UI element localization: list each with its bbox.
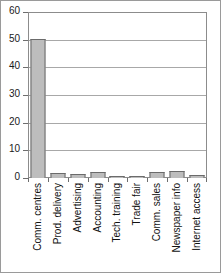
y-tick-label-60: 60 <box>9 6 20 16</box>
x-axis-category-label: Comm. centres <box>33 183 43 251</box>
x-tick-mark <box>187 178 188 182</box>
y-tick-label-50: 50 <box>9 34 20 44</box>
x-tick-mark <box>28 178 29 182</box>
bar-chart-figure: 0102030405060 Comm. centresProd. deliver… <box>0 0 221 273</box>
bar-slot <box>108 12 128 178</box>
x-label-slot: Advertising <box>68 183 88 272</box>
x-label-slot: Trade fair <box>127 183 147 272</box>
x-label-slot: Newspaper info <box>167 183 187 272</box>
x-label-slot: Tech. training <box>108 183 128 272</box>
x-axis-category-label: Internet access <box>192 183 202 251</box>
x-label-slot: Accounting <box>88 183 108 272</box>
x-axis-labels: Comm. centresProd. deliveryAdvertisingAc… <box>28 183 207 272</box>
x-tick-mark <box>108 178 109 182</box>
bar[interactable] <box>30 39 45 178</box>
y-tick-label-10: 10 <box>9 144 20 154</box>
bar-slot <box>68 12 88 178</box>
bar-slot <box>28 12 48 178</box>
x-axis-category-label: Trade fair <box>132 183 142 225</box>
x-axis-category-label: Accounting <box>93 183 103 232</box>
x-tick-mark <box>167 178 168 182</box>
x-label-slot: Prod. delivery <box>48 183 68 272</box>
y-axis: 0102030405060 <box>1 1 28 189</box>
x-axis-category-label: Newspaper info <box>172 183 182 252</box>
y-tick-label-20: 20 <box>9 117 20 127</box>
bar-slot <box>127 12 147 178</box>
bar-series <box>28 12 207 178</box>
x-axis-category-label: Comm. sales <box>152 183 162 241</box>
bar-slot <box>167 12 187 178</box>
x-tick-mark <box>48 178 49 182</box>
bar-slot <box>48 12 68 178</box>
x-tick-mark <box>147 178 148 182</box>
x-tick-mark <box>88 178 89 182</box>
x-label-slot: Internet access <box>187 183 207 272</box>
x-tick-mark <box>127 178 128 182</box>
bar[interactable] <box>170 171 185 178</box>
bar-slot <box>187 12 207 178</box>
y-tick-label-30: 30 <box>9 89 20 99</box>
x-axis-category-label: Tech. training <box>112 183 122 242</box>
bar-slot <box>88 12 108 178</box>
y-tick-label-40: 40 <box>9 61 20 71</box>
x-label-slot: Comm. centres <box>28 183 48 272</box>
y-tick-label-0: 0 <box>14 172 20 182</box>
x-axis-category-label: Advertising <box>73 183 83 232</box>
x-axis-category-label: Prod. delivery <box>53 183 63 244</box>
x-label-slot: Comm. sales <box>147 183 167 272</box>
bar-slot <box>147 12 167 178</box>
x-tick-mark <box>206 178 207 182</box>
x-tick-mark <box>68 178 69 182</box>
